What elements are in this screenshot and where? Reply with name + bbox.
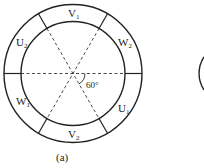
axis-lines: [21, 29, 125, 119]
label-u1: U1: [118, 102, 130, 116]
angle-arc: [79, 74, 85, 84]
divider-bottom-left: [39, 119, 48, 134]
figure-caption: (a): [56, 151, 69, 164]
label-v1: V1: [68, 7, 80, 21]
label-w2: W2: [118, 36, 132, 50]
divider-top-left: [39, 14, 48, 29]
label-u2: U2: [16, 36, 28, 50]
angle-label: 60°: [86, 80, 99, 90]
divider-bottom-right: [99, 119, 108, 134]
adjacent-figure-edge: [199, 57, 204, 90]
label-w1: W1: [16, 95, 30, 109]
segment-labels: V1 W2 U1 V2 W1 U2: [16, 7, 132, 142]
divider-top-right: [99, 14, 108, 29]
winding-diagram: 60° V1 W2 U1 V2 W1 U2 (a): [0, 0, 204, 168]
label-v2: V2: [68, 128, 80, 142]
